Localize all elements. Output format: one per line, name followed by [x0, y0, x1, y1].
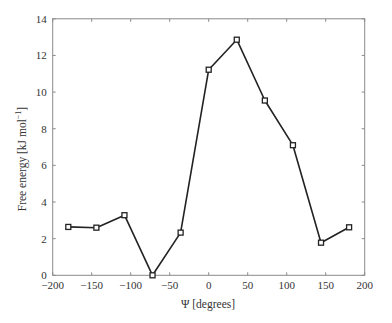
plot-area [53, 19, 365, 276]
data-point-marker [178, 230, 183, 235]
y-axis-label: Free energy [kJ mol−1] [14, 107, 29, 211]
x-tick-label: 50 [242, 279, 254, 291]
y-tick-label: 4 [41, 196, 47, 208]
free-energy-chart: −200−150−100−50050100150200 02468101214 … [0, 0, 392, 323]
x-tick-label: 0 [206, 279, 212, 291]
x-tick-label: 150 [317, 279, 334, 291]
data-point-marker [234, 37, 239, 42]
axes-box [53, 19, 365, 276]
y-tick-label: 12 [36, 49, 47, 61]
y-tick-label: 2 [41, 233, 47, 245]
data-point-marker [66, 224, 71, 229]
data-point-marker [262, 98, 267, 103]
x-tick-label: 100 [278, 279, 295, 291]
y-tick-label: 10 [36, 86, 48, 98]
series-line [68, 40, 349, 276]
y-tick-label: 8 [41, 123, 47, 135]
y-tick-label: 14 [36, 13, 48, 25]
data-point-marker [150, 273, 155, 278]
data-point-marker [347, 225, 352, 230]
x-tick-label: −100 [119, 279, 142, 291]
y-tick-label: 6 [41, 159, 47, 171]
data-series [66, 37, 352, 278]
data-point-marker [94, 225, 99, 230]
x-axis: −200−150−100−50050100150200 [41, 19, 373, 292]
data-point-marker [290, 143, 295, 148]
x-tick-label: 200 [356, 279, 373, 291]
x-tick-label: −50 [161, 279, 179, 291]
data-point-marker [319, 240, 324, 245]
data-point-marker [122, 213, 127, 218]
y-axis: 02468101214 [36, 13, 365, 282]
data-point-marker [206, 67, 211, 72]
y-tick-label: 0 [41, 269, 47, 281]
x-tick-label: −150 [80, 279, 103, 291]
x-axis-label: Ψ [degrees] [181, 298, 235, 311]
